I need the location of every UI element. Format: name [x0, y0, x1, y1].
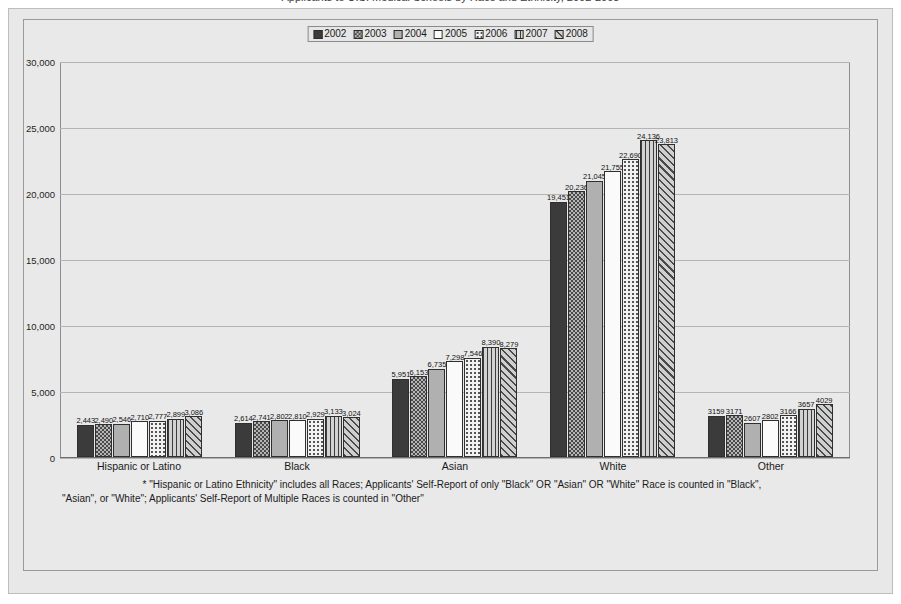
bar-group-hispanic-or-latino: 2,4432,4902,5462,7102,7772,8993,086 [61, 63, 219, 457]
bar-2002[interactable]: 2,443 [77, 425, 94, 457]
bar-value-label: 2607 [744, 415, 761, 423]
bar-value-label: 2,710 [130, 414, 149, 422]
legend-swatch-2007-icon [514, 30, 523, 39]
legend-label-2008: 2008 [566, 29, 588, 39]
bar-2008[interactable]: 4029 [816, 404, 833, 457]
footnote-line-2: "Asian", or "White"; Applicants' Self-Re… [62, 493, 424, 504]
bar-value-label: 2802 [762, 413, 779, 421]
bar-2003[interactable]: 3171 [726, 415, 743, 457]
bar-2003[interactable]: 2,490 [95, 424, 112, 457]
legend-label-2005: 2005 [445, 29, 467, 39]
legend-item-2003[interactable]: 2003 [353, 29, 386, 39]
bar-2008[interactable]: 8,279 [500, 348, 517, 457]
y-axis-tick-10000: 10,000 [0, 321, 55, 332]
legend-item-2005[interactable]: 2005 [434, 29, 467, 39]
legend-swatch-2006-icon [474, 30, 483, 39]
bar-value-label: 21,045 [583, 173, 606, 181]
bar-2006[interactable]: 2,929 [307, 419, 324, 457]
legend-item-2007[interactable]: 2007 [514, 29, 547, 39]
bar-value-label: 2,810 [288, 413, 307, 421]
bar-value-label: 2,741 [252, 414, 271, 422]
y-axis-tick-5000: 5,000 [0, 387, 55, 398]
bar-value-label: 2,443 [76, 417, 95, 425]
legend-item-2006[interactable]: 2006 [474, 29, 507, 39]
bar-2006[interactable]: 22,690 [622, 159, 639, 457]
bar-value-label: 2,546 [112, 416, 131, 424]
bar-2002[interactable]: 5,951 [392, 379, 409, 457]
bar-2008[interactable]: 23,813 [658, 144, 675, 457]
bar-value-label: 2,777 [148, 413, 167, 421]
category-labels: Hispanic or LatinoBlackAsianWhiteOther [60, 460, 850, 472]
bar-2006[interactable]: 3166 [780, 415, 797, 457]
bar-group-black: 2,6142,7412,8022,8102,9293,1333,024 [219, 63, 377, 457]
bar-2007[interactable]: 24,136 [640, 140, 657, 457]
bar-2007[interactable]: 2,899 [167, 419, 184, 457]
legend-item-2002[interactable]: 2002 [313, 29, 346, 39]
bar-2003[interactable]: 6,153 [410, 376, 427, 457]
bar-value-label: 2,929 [306, 411, 325, 419]
bar-value-label: 2,614 [234, 415, 253, 423]
bar-value-label: 3159 [708, 408, 725, 416]
bar-2005[interactable]: 2802 [762, 420, 779, 457]
bar-value-label: 5,951 [392, 371, 411, 379]
bar-2008[interactable]: 3,024 [343, 417, 360, 457]
bar-value-label: 6,153 [410, 369, 429, 377]
bar-2005[interactable]: 2,810 [289, 420, 306, 457]
bar-group-white: 19,45120,23621,04521,75522,69024,13623,8… [534, 63, 692, 457]
bar-2005[interactable]: 2,710 [131, 421, 148, 457]
bar-2003[interactable]: 2,741 [253, 421, 270, 457]
y-axis-tick-0: 0 [0, 453, 55, 464]
bar-value-label: 19,451 [547, 194, 570, 202]
bar-2008[interactable]: 3,086 [185, 416, 202, 457]
plot-area: 30,00025,00020,00015,00010,0005,0000 2,4… [60, 62, 850, 458]
bar-group-other: 3159317126072802316636574029 [691, 63, 849, 457]
bar-value-label: 22,690 [619, 152, 642, 160]
bar-2006[interactable]: 7,546 [464, 358, 481, 457]
gridline-0 [60, 458, 850, 459]
bar-value-label: 3166 [780, 408, 797, 416]
bar-2004[interactable]: 6,735 [428, 369, 445, 457]
category-label-hispanic-or-latino: Hispanic or Latino [60, 460, 218, 472]
bar-2004[interactable]: 21,045 [586, 181, 603, 457]
bar-2006[interactable]: 2,777 [149, 421, 166, 457]
x-axis-line [60, 457, 850, 458]
bar-value-label: 3,133 [324, 408, 343, 416]
legend-swatch-2002-icon [313, 30, 322, 39]
footnote-line-1: * "Hispanic or Latino Ethnicity" include… [62, 478, 842, 492]
chart-title-text: Applicants to U.S. Medical Schools by Ra… [282, 0, 620, 3]
category-label-asian: Asian [376, 460, 534, 472]
bar-value-label: 3,086 [184, 409, 203, 417]
bar-value-label: 7,298 [446, 354, 465, 362]
bar-2002[interactable]: 3159 [708, 416, 725, 457]
bar-2004[interactable]: 2607 [744, 423, 761, 457]
bar-2004[interactable]: 2,802 [271, 420, 288, 457]
bar-2005[interactable]: 21,755 [604, 171, 621, 457]
bar-2002[interactable]: 2,614 [235, 423, 252, 457]
bar-2003[interactable]: 20,236 [568, 191, 585, 457]
legend-label-2007: 2007 [525, 29, 547, 39]
legend-item-2004[interactable]: 2004 [394, 29, 427, 39]
bar-value-label: 23,813 [655, 137, 678, 145]
y-axis-tick-15000: 15,000 [0, 255, 55, 266]
bar-2002[interactable]: 19,451 [550, 202, 567, 457]
bar-groups: 2,4432,4902,5462,7102,7772,8993,0862,614… [61, 63, 849, 457]
legend-label-2003: 2003 [364, 29, 386, 39]
bar-value-label: 8,390 [482, 339, 501, 347]
bar-group-asian: 5,9516,1536,7357,2987,5468,3908,279 [376, 63, 534, 457]
y-axis-tick-20000: 20,000 [0, 189, 55, 200]
bar-value-label: 6,735 [428, 361, 447, 369]
legend-swatch-2003-icon [353, 30, 362, 39]
category-label-other: Other [692, 460, 850, 472]
category-label-black: Black [218, 460, 376, 472]
y-axis-tick-25000: 25,000 [0, 123, 55, 134]
bar-value-label: 21,755 [601, 164, 624, 172]
legend-swatch-2005-icon [434, 30, 443, 39]
bar-2007[interactable]: 3657 [798, 409, 815, 457]
bar-2007[interactable]: 8,390 [482, 347, 499, 457]
category-label-white: White [534, 460, 692, 472]
legend-item-2008[interactable]: 2008 [555, 29, 588, 39]
bar-2007[interactable]: 3,133 [325, 416, 342, 457]
bar-2005[interactable]: 7,298 [446, 361, 463, 457]
bar-2004[interactable]: 2,546 [113, 424, 130, 457]
chart-legend: 2002200320042005200620072008 [307, 26, 594, 42]
